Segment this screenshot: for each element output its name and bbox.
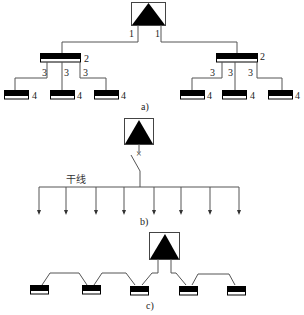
caption-b: b): [140, 216, 148, 228]
panel-b-trunk: × 干线 b): [37, 119, 241, 229]
load-board-label: 4: [295, 90, 300, 101]
distribution-board-icon: [130, 286, 149, 295]
sub-board-left-icon: [40, 53, 81, 62]
caption-c: c): [146, 300, 154, 312]
load-board-label: 4: [121, 90, 126, 101]
feeder-line-right: [161, 25, 237, 53]
load-board-icon: [222, 90, 247, 99]
branch-label: 3: [83, 67, 88, 78]
load-board-icon: [268, 90, 293, 99]
branch-label: 3: [210, 67, 215, 78]
load-board-label: 4: [77, 90, 82, 101]
trunk-label: 干线: [66, 173, 86, 185]
chain-link: [192, 274, 235, 285]
load-board-label: 4: [207, 90, 212, 101]
branch-label: 3: [42, 67, 47, 78]
chain-line-left: [142, 259, 158, 285]
load-board-icon: [94, 90, 119, 99]
arrow-down-icon: [64, 187, 68, 215]
chain-link: [94, 273, 135, 285]
chain-line-right: [171, 259, 186, 285]
source-transformer-icon: [132, 3, 166, 26]
source-transformer-icon: [125, 119, 154, 145]
load-board-icon: [180, 90, 205, 99]
arrow-down-icon: [237, 187, 241, 215]
load-board-icon: [4, 90, 29, 99]
load-board-label: 4: [32, 90, 37, 101]
branch-line: [257, 62, 282, 90]
feeder-label-right: 1: [155, 28, 160, 39]
arrow-down-icon: [179, 187, 183, 215]
sub-board-right-icon: [216, 53, 258, 62]
panel-a-radial: 1 1 2 3 3 3 2 3 3 3 4 4: [4, 3, 300, 114]
load-board-label: 4: [250, 90, 255, 101]
panel-c-chain: c): [30, 233, 246, 313]
branch-line: [192, 62, 222, 90]
switch-icon: [131, 155, 140, 187]
wiring-diagram: 1 1 2 3 3 3 2 3 3 3 4 4: [0, 0, 304, 315]
distribution-board-icon: [30, 285, 49, 294]
distribution-board-icon: [82, 285, 101, 294]
chain-link: [42, 273, 87, 285]
arrow-down-icon: [37, 187, 41, 215]
branch-label: 3: [64, 67, 69, 78]
feeder-label-left: 1: [129, 28, 134, 39]
distribution-board-icon: [179, 286, 198, 295]
sub-board-left-label: 2: [84, 53, 89, 64]
caption-a: a): [141, 101, 149, 113]
arrow-down-icon: [208, 187, 212, 215]
arrow-down-icon: [152, 187, 156, 215]
distribution-board-icon: [227, 286, 246, 295]
branch-label: 3: [248, 67, 253, 78]
branch-label: 3: [228, 67, 233, 78]
feeder-line-left: [62, 25, 138, 53]
source-transformer-icon: [150, 233, 180, 260]
arrow-down-icon: [122, 187, 126, 215]
load-board-icon: [50, 90, 75, 99]
branch-arrows: [37, 187, 241, 215]
arrow-down-icon: [94, 187, 98, 215]
breaker-mark-icon: ×: [136, 148, 142, 159]
sub-board-right-label: 2: [260, 51, 265, 62]
